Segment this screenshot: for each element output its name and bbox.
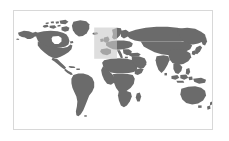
map-frame — [13, 10, 213, 130]
region-highlight-europe[interactable] — [94, 28, 117, 59]
region-hispaniola — [76, 69, 79, 70]
region-java — [176, 81, 184, 83]
region-falklands — [84, 115, 86, 116]
region-tasmania — [198, 105, 201, 107]
region-sri-lanka — [164, 73, 166, 75]
world-map-canvas[interactable] — [14, 11, 212, 129]
world-map-widget — [0, 0, 229, 141]
region-mediterranean-islands — [125, 57, 128, 58]
